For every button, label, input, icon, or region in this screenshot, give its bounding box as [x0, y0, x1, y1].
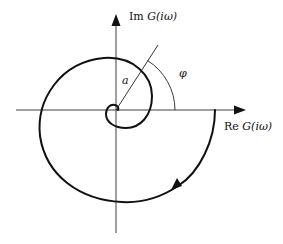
real-axis-func: G(iω): [242, 120, 272, 133]
imaginary-axis-arrowhead-icon: [112, 14, 121, 26]
real-axis-prefix: Re: [224, 120, 239, 133]
radius-label: a: [122, 75, 129, 86]
imaginary-axis-label: Im G(iω): [129, 11, 177, 22]
real-axis-arrowhead-icon: [234, 106, 246, 115]
real-axis-label: Re G(iω): [224, 121, 272, 132]
direction-arrowhead-icon: [171, 178, 182, 190]
imaginary-axis-prefix: Im: [129, 10, 144, 23]
angle-label: φ: [179, 68, 187, 79]
imaginary-axis-func: G(iω): [147, 10, 177, 23]
